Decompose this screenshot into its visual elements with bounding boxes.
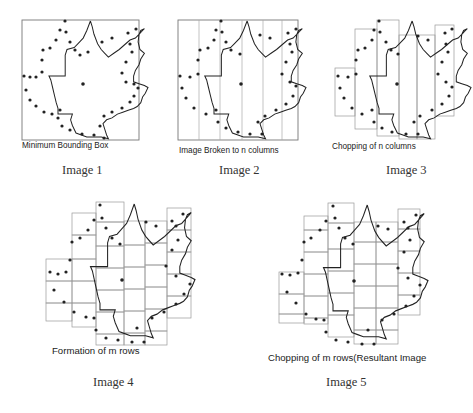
- centroid-dot: [395, 82, 399, 86]
- panel-label: Formation of m rows: [52, 345, 139, 356]
- contour-points: [336, 19, 453, 135]
- panel-image-4: Formation of m rows Image 4: [0, 195, 240, 413]
- panel-label: Chopping of n columns: [332, 142, 416, 151]
- contour-points: [22, 19, 139, 139]
- centroid-dot: [81, 82, 85, 86]
- centroid-dot: [352, 279, 356, 283]
- panel-caption: Image 4: [93, 375, 134, 390]
- centroid-dot: [120, 278, 124, 282]
- leaf-columns-figure: [160, 0, 320, 150]
- panel-image-2: Image Broken to n columns Image 2: [160, 0, 320, 180]
- contour-points: [178, 19, 297, 135]
- bounding-box: [178, 20, 298, 140]
- grid-cells: [46, 202, 191, 345]
- panel-image-3: Chopping of n columns Image 3: [320, 0, 473, 180]
- leaf-chopped-columns-figure: [320, 0, 473, 150]
- panel-image-5: Chopping of m rows(Resultant Image Image…: [240, 195, 473, 413]
- chopped-column-boxes: [335, 20, 454, 139]
- centroid-dot: [239, 82, 243, 86]
- leaf-chopped-rows-figure: [240, 195, 473, 355]
- panel-caption: Image 1: [62, 163, 103, 178]
- panel-label: Minimum Bounding Box: [22, 141, 108, 150]
- panel-caption: Image 5: [326, 375, 367, 390]
- panel-caption: Image 2: [219, 163, 260, 178]
- leaf-bounding-box-figure: [0, 0, 160, 150]
- panel-image-1: Minimum Bounding Box Image 1: [0, 0, 160, 180]
- leaf-rows-figure: [0, 195, 240, 355]
- panel-caption: Image 3: [386, 163, 427, 178]
- panel-label: Image Broken to n columns: [179, 146, 279, 155]
- contour-points: [48, 203, 191, 343]
- panel-label: Chopping of m rows(Resultant Image: [268, 352, 426, 363]
- bounding-box: [22, 20, 139, 140]
- contour-points: [280, 204, 421, 345]
- resultant-grid-cells: [279, 203, 420, 344]
